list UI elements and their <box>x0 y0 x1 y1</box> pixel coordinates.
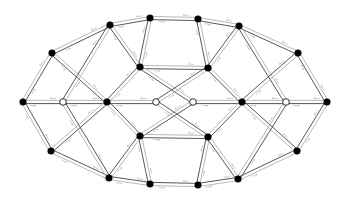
edge-n2-n20 <box>109 24 142 68</box>
edge-arrow-icon <box>196 29 197 35</box>
edge-n23-n10 <box>196 137 209 186</box>
edge-arrow-icon <box>225 176 231 177</box>
edge-n2-n3 <box>110 15 151 27</box>
edge-arrow-icon <box>188 63 194 64</box>
node-n9 <box>235 176 242 183</box>
node-n6 <box>295 50 302 57</box>
edge-arrow-icon <box>226 19 232 21</box>
edge-n19-n7 <box>286 97 327 106</box>
edge-arrow-icon <box>71 106 77 107</box>
edge-arrow-icon <box>208 52 209 58</box>
edge-n11-n12 <box>109 176 150 185</box>
edge-n9-n19 <box>237 101 288 180</box>
edge-arrow-icon <box>205 24 211 26</box>
edge-n8-n18 <box>241 101 298 152</box>
edge-n12-n13 <box>50 150 109 180</box>
edge-n6-n7 <box>297 52 329 103</box>
node-n2 <box>107 22 114 29</box>
edge-n7-n8 <box>296 101 329 152</box>
edge-n22-n11 <box>138 136 152 185</box>
edge-arrow-icon <box>314 97 320 98</box>
edge-arrow-icon <box>183 14 189 15</box>
node-n14 <box>60 99 67 106</box>
node-n19 <box>283 99 290 106</box>
edge-arrow-icon <box>137 178 143 180</box>
edge-n13-n15 <box>50 101 108 152</box>
edge-n17-n18 <box>193 97 242 106</box>
edge-n1-n2 <box>51 24 110 55</box>
edge-arrow-icon <box>138 146 139 152</box>
edge-arrow-icon <box>93 97 99 98</box>
node-n20 <box>137 64 144 71</box>
edge-arrow-icon <box>202 106 208 107</box>
edge-n5-n21 <box>207 25 241 69</box>
edge-n22-n12 <box>108 135 142 179</box>
node-n21 <box>205 65 212 72</box>
graph-diagram <box>0 0 349 199</box>
edge-n3-n4 <box>150 14 198 23</box>
edge-n15-n16 <box>107 97 156 106</box>
node-n11 <box>147 181 154 188</box>
edge-arrow-icon <box>272 97 278 98</box>
node-n13 <box>48 148 55 155</box>
edge-n3-n20 <box>138 18 151 68</box>
edge-arrow-icon <box>250 106 256 107</box>
edge-arrow-icon <box>141 97 147 98</box>
node-n22 <box>137 133 144 140</box>
edge-arrow-icon <box>201 145 203 151</box>
edge-n22-n23 <box>140 132 208 141</box>
node-n1 <box>49 50 56 57</box>
node-n10 <box>195 182 202 189</box>
edge-n22-n15 <box>106 101 141 137</box>
edge-arrow-icon <box>150 168 151 174</box>
edge-arrow-icon <box>116 183 122 185</box>
edge-n0-n1 <box>22 52 54 103</box>
edge-n8-n9 <box>237 150 297 181</box>
edge-arrow-icon <box>118 26 124 27</box>
edge-n23-n18 <box>207 101 243 138</box>
edge-n4-n21 <box>196 19 210 69</box>
edge-n13-n0 <box>22 101 53 152</box>
edge-arrow-icon <box>154 140 160 141</box>
node-n5 <box>236 23 243 30</box>
edge-arrow-icon <box>116 106 122 107</box>
edge-n23-n9 <box>207 136 240 180</box>
edge-n10-n11 <box>150 180 198 189</box>
node-n8 <box>294 148 301 155</box>
edge-arrow-icon <box>206 187 212 188</box>
edge-n5-n6 <box>238 25 298 55</box>
edge-arrow-icon <box>188 132 194 133</box>
edge-arrow-icon <box>143 27 145 33</box>
edge-arrow-icon <box>136 15 142 16</box>
edge-n22-n17 <box>139 101 194 138</box>
node-n15 <box>104 99 111 106</box>
edge-arrow-icon <box>183 180 189 181</box>
edge-arrow-icon <box>227 97 233 98</box>
node-n23 <box>205 134 212 141</box>
node-n12 <box>106 175 113 182</box>
node-n16 <box>153 99 160 106</box>
edge-n0-n14 <box>23 97 63 106</box>
edge-arrow-icon <box>145 53 147 59</box>
edge-n2-n14 <box>62 24 112 103</box>
edge-n9-n10 <box>198 176 238 188</box>
node-n7 <box>324 99 331 106</box>
edge-arrow-icon <box>154 71 160 72</box>
node-n0 <box>20 99 27 106</box>
node-n4 <box>195 16 202 23</box>
edge-n21-n18 <box>207 67 243 103</box>
edge-n21-n16 <box>155 67 209 104</box>
edge-arrow-icon <box>30 106 36 107</box>
edge-n20-n15 <box>106 66 141 103</box>
edge-arrow-icon <box>203 171 205 177</box>
edge-arrow-icon <box>50 97 56 98</box>
edge-arrow-icon <box>159 22 165 23</box>
edge-n20-n21 <box>140 63 208 72</box>
node-n17 <box>190 99 197 106</box>
edge-n6-n18 <box>241 52 299 103</box>
node-n3 <box>147 15 154 22</box>
node-n18 <box>239 99 246 106</box>
edge-arrow-icon <box>159 188 165 189</box>
edge-arrow-icon <box>293 106 299 107</box>
edge-n4-n5 <box>198 17 240 27</box>
